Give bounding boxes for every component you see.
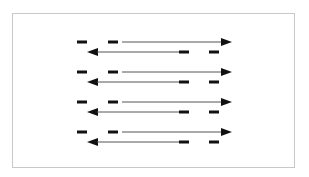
arrow-diagram	[0, 0, 309, 177]
arrowhead-left-icon	[87, 138, 98, 146]
dash-segment	[108, 41, 118, 44]
arrowhead-right-icon	[221, 38, 232, 46]
arrowhead-left-icon	[87, 48, 98, 56]
dash-segment	[179, 111, 189, 114]
dash-segment	[179, 81, 189, 84]
dash-segment	[108, 101, 118, 104]
dash-segment	[209, 111, 219, 114]
dash-segment	[77, 101, 87, 104]
dash-segment	[179, 51, 189, 54]
arrowhead-right-icon	[221, 98, 232, 106]
dash-segment	[108, 131, 118, 134]
arrowhead-right-icon	[221, 68, 232, 76]
arrow-pair-row-1	[77, 38, 232, 56]
arrow-pair-row-2	[77, 68, 232, 86]
dash-segment	[209, 81, 219, 84]
dash-segment	[77, 41, 87, 44]
arrow-pair-row-3	[77, 98, 232, 116]
arrow-pair-row-4	[77, 128, 232, 146]
dash-segment	[77, 131, 87, 134]
arrowhead-right-icon	[221, 128, 232, 136]
dash-segment	[209, 141, 219, 144]
arrowhead-left-icon	[87, 78, 98, 86]
dash-segment	[179, 141, 189, 144]
arrowhead-left-icon	[87, 108, 98, 116]
dash-segment	[77, 71, 87, 74]
dash-segment	[108, 71, 118, 74]
dash-segment	[209, 51, 219, 54]
